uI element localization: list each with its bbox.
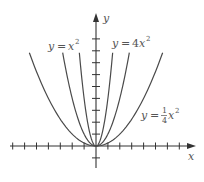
svg-text:=: = <box>150 109 159 122</box>
svg-text:=: = <box>121 37 130 50</box>
x-axis-label: x <box>188 150 195 163</box>
svg-text:y: y <box>111 37 119 50</box>
svg-text:2: 2 <box>75 38 79 46</box>
svg-text:4: 4 <box>132 37 139 50</box>
svg-text:x: x <box>139 37 146 50</box>
svg-text:x: x <box>168 109 175 122</box>
label-y-eq-quarter-x2: y = 1 4 x 2 <box>140 106 179 125</box>
svg-text:4: 4 <box>162 116 167 125</box>
svg-text:x: x <box>68 40 75 53</box>
svg-text:y: y <box>47 40 55 53</box>
label-y-eq-x2: y = x 2 <box>47 38 79 53</box>
svg-text:2: 2 <box>175 107 179 115</box>
svg-text:y: y <box>140 109 148 122</box>
y-axis-label: y <box>102 12 110 25</box>
svg-text:1: 1 <box>162 106 167 115</box>
y-axis-arrow-icon <box>93 13 99 22</box>
svg-text:2: 2 <box>146 35 150 43</box>
x-axis-arrow-icon <box>187 143 196 149</box>
svg-text:=: = <box>57 40 66 53</box>
label-y-eq-4x2: y = 4 x 2 <box>111 35 150 50</box>
parabola-chart: x y y = x 2 y = 4 x 2 y = 1 4 x 2 <box>0 0 204 182</box>
